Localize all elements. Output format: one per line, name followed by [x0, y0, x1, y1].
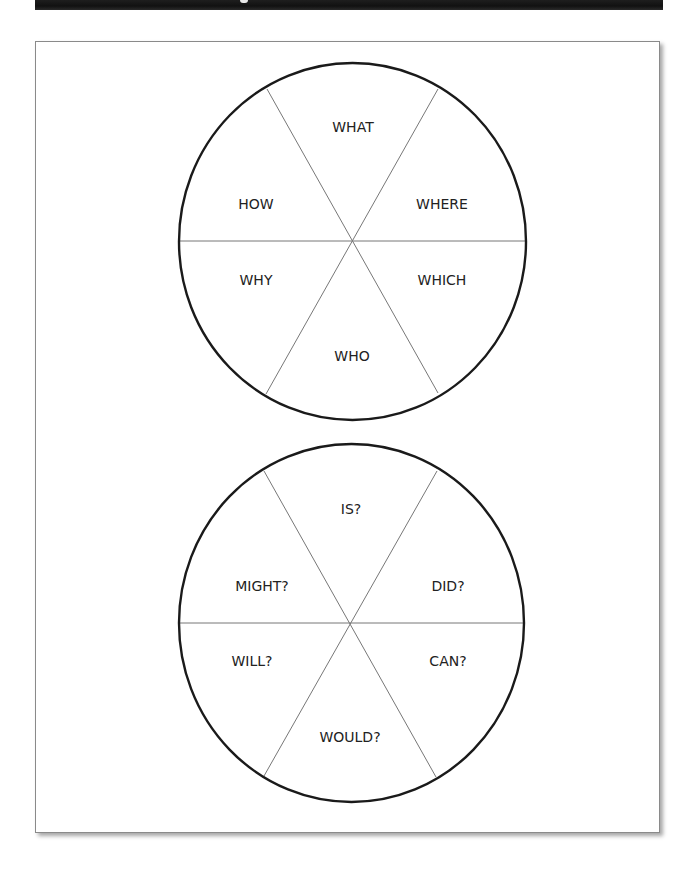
- segment-label-would: WOULD?: [319, 729, 380, 745]
- segment-label-might: MIGHT?: [235, 578, 289, 594]
- wheels-canvas: WHAT HOW WHERE WHY WHICH WHO IS? MIGHT? …: [0, 0, 695, 869]
- segment-label-which: WHICH: [418, 272, 467, 288]
- segment-label-will: WILL?: [231, 653, 272, 669]
- segment-label-how: HOW: [238, 196, 274, 212]
- segment-label-what: WHAT: [332, 119, 374, 135]
- segment-label-is: IS?: [341, 501, 361, 517]
- question-words-wheel: WHAT HOW WHERE WHY WHICH WHO: [179, 63, 526, 420]
- segment-label-did: DID?: [431, 578, 464, 594]
- segment-label-why: WHY: [240, 272, 273, 288]
- segment-label-where: WHERE: [416, 196, 468, 212]
- segment-label-can: CAN?: [429, 653, 466, 669]
- question-verbs-wheel: IS? MIGHT? DID? WILL? CAN? WOULD?: [179, 444, 524, 802]
- segment-label-who: WHO: [334, 348, 369, 364]
